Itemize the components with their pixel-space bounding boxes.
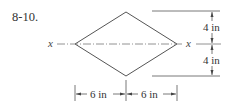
arrow-up-icon — [211, 45, 214, 50]
lower-height-label: 4 in — [203, 55, 220, 66]
left-width-label: 6 in — [90, 89, 107, 100]
arrow-right-icon — [120, 93, 125, 96]
axis-label-right: x — [186, 38, 191, 49]
arrow-down-icon — [211, 38, 214, 43]
upper-height-label: 4 in — [203, 22, 220, 33]
arrow-down-icon — [211, 70, 214, 75]
arrow-right-icon — [171, 93, 176, 96]
problem-number: 8-10. — [12, 11, 38, 24]
arrow-left-icon — [76, 93, 81, 96]
arrow-left-icon — [127, 93, 132, 96]
axis-label-left: x — [48, 38, 53, 49]
arrow-up-icon — [211, 12, 214, 17]
right-width-label: 6 in — [141, 89, 158, 100]
